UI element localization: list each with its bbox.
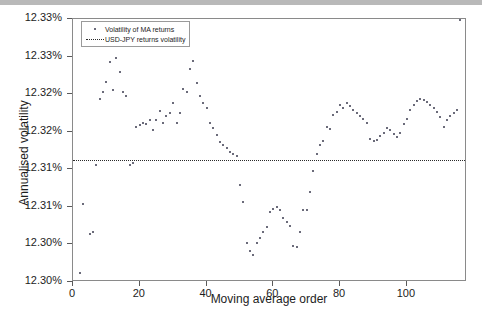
x-tick-mark: [139, 281, 140, 286]
data-point: [449, 115, 451, 117]
data-point: [192, 60, 194, 62]
data-point: [329, 128, 331, 130]
data-point: [242, 201, 244, 203]
data-point: [112, 89, 114, 91]
data-point: [142, 122, 144, 124]
data-point: [439, 116, 441, 118]
data-point: [226, 147, 228, 149]
data-point: [125, 95, 127, 97]
data-point: [326, 126, 328, 128]
x-tick-label: 100: [381, 288, 431, 299]
y-tick-label: 12.31%: [0, 162, 62, 173]
chart-legend: Volatility of MA returns USD-JPY returns…: [81, 21, 190, 47]
y-tick-label: 12.33%: [0, 12, 62, 23]
data-point: [352, 109, 354, 111]
data-point: [339, 104, 341, 106]
scatter-dot-icon: [85, 28, 105, 30]
data-point: [376, 139, 378, 141]
y-tick-label: 12.30%: [0, 275, 62, 286]
data-point: [266, 226, 268, 228]
data-point: [232, 153, 234, 155]
data-point: [279, 209, 281, 211]
data-point: [152, 129, 154, 131]
data-point: [209, 122, 211, 124]
data-point: [236, 155, 238, 157]
data-point: [95, 164, 97, 166]
dotted-line-icon: [85, 39, 105, 40]
x-tick-label: 60: [247, 288, 297, 299]
data-point: [222, 144, 224, 146]
data-point: [419, 98, 421, 100]
data-point: [135, 126, 137, 128]
y-tick-label: 12.30%: [0, 237, 62, 248]
x-tick-mark: [72, 281, 73, 286]
x-tick-mark: [339, 281, 340, 286]
data-point: [169, 112, 171, 114]
data-point: [276, 206, 278, 208]
data-point: [306, 209, 308, 211]
data-point: [453, 112, 455, 114]
legend-item-volatility-ma: Volatility of MA returns: [85, 24, 185, 34]
data-point: [386, 127, 388, 129]
legend-label: Volatility of MA returns: [105, 25, 174, 34]
data-point: [389, 129, 391, 131]
x-tick-mark: [206, 281, 207, 286]
data-point: [145, 123, 147, 125]
data-point: [342, 107, 344, 109]
data-point: [359, 115, 361, 117]
data-point: [159, 110, 161, 112]
data-point: [179, 112, 181, 114]
data-point: [406, 118, 408, 120]
data-point: [446, 119, 448, 121]
data-point: [129, 164, 131, 166]
data-point: [172, 102, 174, 104]
x-tick-mark: [272, 281, 273, 286]
data-point: [416, 100, 418, 102]
x-tick-label: 80: [314, 288, 364, 299]
data-point: [403, 123, 405, 125]
data-point: [109, 61, 111, 63]
data-point: [362, 118, 364, 120]
x-tick-label: 0: [47, 288, 97, 299]
data-point: [269, 211, 271, 213]
legend-label: USD-JPY returns volatility: [105, 35, 185, 44]
data-point: [299, 231, 301, 233]
data-point: [456, 109, 458, 111]
data-point: [246, 242, 248, 244]
data-point: [252, 254, 254, 256]
legend-item-usd-jpy: USD-JPY returns volatility: [85, 34, 185, 44]
x-tick-label: 20: [114, 288, 164, 299]
data-point: [319, 144, 321, 146]
data-point: [162, 122, 164, 124]
data-point: [165, 115, 167, 117]
data-point: [292, 245, 294, 247]
data-point: [433, 107, 435, 109]
usd-jpy-reference-line: [73, 160, 465, 161]
data-point: [256, 242, 258, 244]
y-tick-label: 12.31%: [0, 200, 62, 211]
plot-area: Volatility of MA returns USD-JPY returns…: [72, 18, 466, 281]
data-point: [92, 231, 94, 233]
y-tick-label: 12.32%: [0, 125, 62, 136]
data-point: [356, 112, 358, 114]
data-point: [366, 122, 368, 124]
data-point: [262, 231, 264, 233]
data-point: [459, 19, 461, 21]
data-point: [282, 217, 284, 219]
y-tick-label: 12.32%: [0, 87, 62, 98]
data-point: [302, 209, 304, 211]
data-point: [296, 246, 298, 248]
data-point: [182, 88, 184, 90]
data-point: [189, 68, 191, 70]
y-axis-title: Annualised volatility: [17, 53, 31, 253]
data-point: [336, 111, 338, 113]
data-point: [409, 109, 411, 111]
data-point: [119, 71, 121, 73]
data-point: [393, 133, 395, 135]
data-point: [102, 91, 104, 93]
data-point: [373, 140, 375, 142]
data-point: [286, 221, 288, 223]
data-point: [379, 135, 381, 137]
x-tick-label: 40: [181, 288, 231, 299]
scatter-chart-figure: Annualised volatility Moving average ord…: [0, 0, 482, 312]
